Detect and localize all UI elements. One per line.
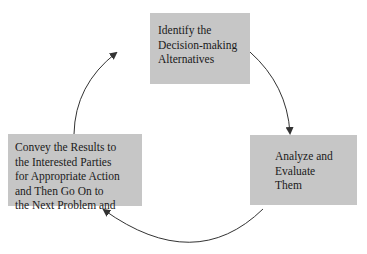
node-text-line: and Then Go On to — [15, 184, 142, 199]
node-identify-alternatives: Identify the Decision-making Alternative… — [150, 13, 250, 84]
node-text-line: the Next Problem and — [15, 198, 142, 213]
node-text-line: Them — [275, 178, 357, 193]
arrow-analyze-to-convey — [104, 209, 263, 242]
node-text-line: Evaluate — [275, 164, 357, 179]
node-text-line: the Interested Parties — [15, 155, 142, 170]
arrow-convey-to-identify — [74, 53, 116, 134]
node-text-line: Identify the — [158, 23, 250, 38]
arrow-identify-to-analyze — [250, 52, 290, 133]
node-text-line: for Appropriate Action — [15, 169, 142, 184]
node-text-line: Decision-making — [158, 38, 250, 53]
node-text-line: Alternatives — [158, 52, 250, 67]
node-convey-results: Convey the Results to the Interested Par… — [8, 134, 142, 206]
node-analyze-evaluate: Analyze and Evaluate Them — [250, 135, 357, 205]
node-text-line: Analyze and — [275, 149, 357, 164]
node-text-line: Convey the Results to — [15, 140, 142, 155]
